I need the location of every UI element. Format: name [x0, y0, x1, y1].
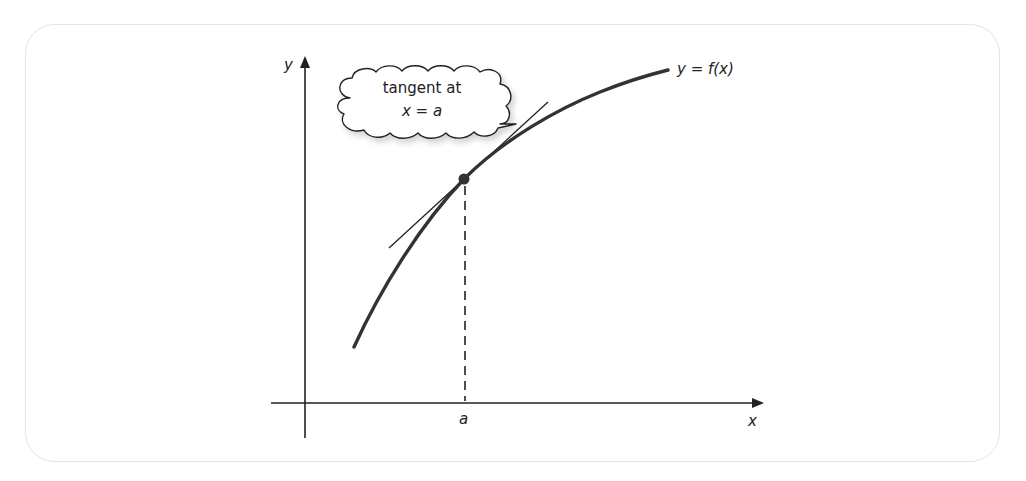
callout-line-1: tangent at [372, 81, 472, 96]
curve-label: y = f(x) [677, 62, 734, 77]
point-of-tangency [459, 174, 470, 185]
tangent-diagram [0, 0, 1026, 481]
x-axis-label: x [748, 414, 757, 429]
point-a-label: a [459, 412, 468, 427]
callout-line-2: x = a [372, 104, 472, 119]
y-axis-label: y [284, 58, 293, 73]
